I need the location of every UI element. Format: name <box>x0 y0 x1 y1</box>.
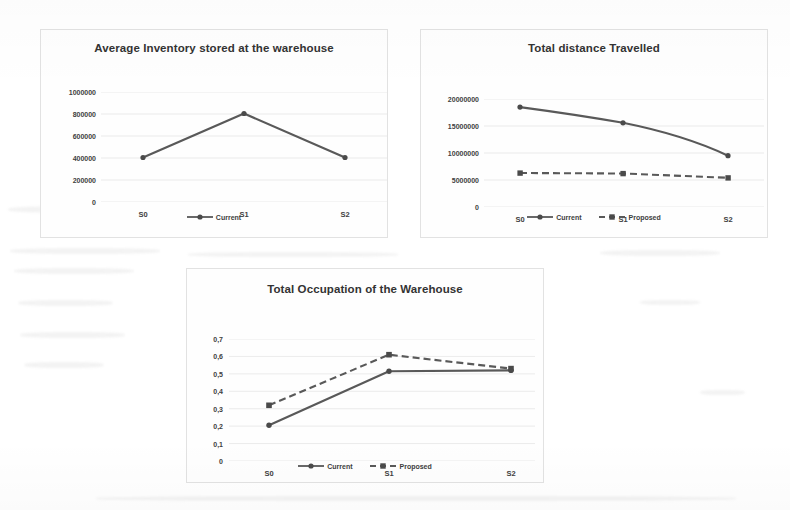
scan-smudge <box>14 268 134 274</box>
series-current <box>266 368 513 428</box>
y-axis-labels-average-inventory: 1000000 800000 600000 400000 200000 0 <box>41 92 96 202</box>
plot-area-average-inventory: 1000000 800000 600000 400000 200000 0 <box>41 54 389 214</box>
plot-svg-total-occupation <box>229 339 535 461</box>
legend-line-solid-icon <box>187 213 213 221</box>
legend-label: Current <box>327 463 352 470</box>
x-tick-label: S2 <box>506 469 515 478</box>
plot-svg-average-inventory <box>101 92 387 202</box>
y-tick-label: 0,2 <box>213 423 223 430</box>
y-tick-label: 0 <box>92 199 96 206</box>
legend-item-current[interactable]: Current <box>298 462 352 470</box>
scan-smudge <box>10 248 160 254</box>
y-tick-label: 600000 <box>73 133 96 140</box>
scan-smudge <box>700 390 745 395</box>
legend-label: Proposed <box>628 214 660 221</box>
chart-card-total-occupation: Total Occupation of the Warehouse 0,7 0,… <box>186 268 544 483</box>
legend-line-solid-icon <box>527 213 553 221</box>
y-tick-label: 20000000 <box>448 96 479 103</box>
scan-smudge <box>20 332 125 338</box>
legend-item-proposed[interactable]: Proposed <box>370 462 431 470</box>
y-axis-labels-total-distance: 20000000 15000000 10000000 5000000 0 <box>421 99 479 207</box>
scan-smudge <box>600 250 720 256</box>
y-tick-label: 0,7 <box>213 336 223 343</box>
legend-total-occupation: Current Proposed <box>187 462 543 470</box>
chart-card-total-distance: Total distance Travelled 20000000 150000… <box>420 29 768 238</box>
y-tick-label: 5000000 <box>452 177 479 184</box>
legend-line-dashed-icon <box>599 213 625 221</box>
series-proposed <box>517 170 730 180</box>
series-current <box>517 105 730 159</box>
series-current <box>140 111 347 160</box>
x-tick-label: S0 <box>264 469 273 478</box>
scan-smudge <box>640 300 700 305</box>
legend-label: Current <box>556 214 581 221</box>
scan-smudge <box>188 252 398 257</box>
legend-total-distance: Current Proposed <box>421 213 767 221</box>
y-tick-label: 200000 <box>73 177 96 184</box>
y-tick-label: 10000000 <box>448 150 479 157</box>
legend-line-solid-icon <box>298 462 324 470</box>
scan-smudge <box>18 300 113 306</box>
y-tick-label: 0,4 <box>213 388 223 395</box>
y-tick-label: 0 <box>475 204 479 211</box>
legend-item-current[interactable]: Current <box>187 213 241 221</box>
plot-area-total-occupation: 0,7 0,6 0,5 0,4 0,3 0,2 0,1 0 <box>187 295 545 465</box>
chart-card-average-inventory: Average Inventory stored at the warehous… <box>40 29 388 238</box>
legend-item-current[interactable]: Current <box>527 213 581 221</box>
x-tick-label: S1 <box>384 469 393 478</box>
legend-item-proposed[interactable]: Proposed <box>599 213 660 221</box>
y-axis-labels-total-occupation: 0,7 0,6 0,5 0,4 0,3 0,2 0,1 0 <box>187 339 223 461</box>
plot-svg-total-distance <box>484 99 764 207</box>
chart-title-total-occupation: Total Occupation of the Warehouse <box>187 283 543 295</box>
scan-smudge <box>24 362 104 368</box>
legend-label: Current <box>216 214 241 221</box>
chart-title-total-distance: Total distance Travelled <box>421 42 767 54</box>
legend-line-dashed-icon <box>370 462 396 470</box>
series-proposed <box>266 352 514 408</box>
legend-average-inventory: Current <box>41 213 387 221</box>
chart-title-average-inventory: Average Inventory stored at the warehous… <box>41 42 387 54</box>
y-tick-label: 0,5 <box>213 370 223 377</box>
scan-smudge <box>96 496 736 501</box>
y-tick-label: 1000000 <box>69 89 96 96</box>
y-tick-label: 0,1 <box>213 440 223 447</box>
legend-label: Proposed <box>399 463 431 470</box>
y-tick-label: 400000 <box>73 155 96 162</box>
y-tick-label: 0,3 <box>213 405 223 412</box>
gridlines <box>101 92 387 202</box>
y-tick-label: 0,6 <box>213 353 223 360</box>
y-tick-label: 800000 <box>73 111 96 118</box>
y-tick-label: 15000000 <box>448 123 479 130</box>
plot-area-total-distance: 20000000 15000000 10000000 5000000 0 <box>421 54 769 214</box>
